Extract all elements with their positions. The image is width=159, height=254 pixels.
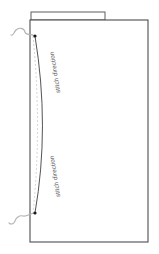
stitch-direction-diagram: stitch direction stitch direction xyxy=(0,0,159,254)
stitch-end-marker xyxy=(33,211,36,214)
panel-top-strip xyxy=(31,12,105,20)
stitch-start-marker xyxy=(33,34,36,37)
diagram-canvas: stitch direction stitch direction xyxy=(0,0,159,254)
